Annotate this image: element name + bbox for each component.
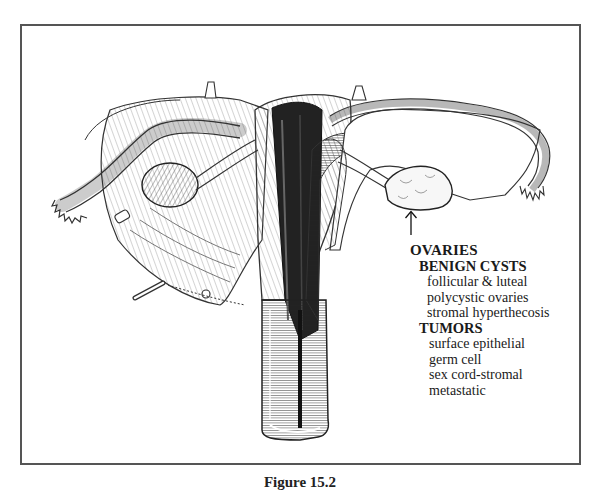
arrow-up-icon bbox=[404, 210, 418, 236]
left-ovary bbox=[142, 163, 198, 207]
vagina bbox=[262, 300, 328, 440]
legend-item: germ cell bbox=[410, 352, 549, 368]
legend-item: stromal hyperthecosis bbox=[410, 305, 549, 321]
legend-group-heading: BENIGN CYSTS bbox=[410, 259, 549, 275]
legend-item: metastatic bbox=[410, 383, 549, 399]
legend-item: surface epithelial bbox=[410, 336, 549, 352]
ovary-disorders-legend: OVARIES BENIGN CYSTS follicular & luteal… bbox=[410, 243, 549, 398]
figure-caption: Figure 15.2 bbox=[0, 474, 600, 491]
right-ovary bbox=[385, 166, 452, 210]
legend-item: polycystic ovaries bbox=[410, 290, 549, 306]
legend-group-heading: TUMORS bbox=[410, 321, 549, 337]
legend-item: sex cord-stromal bbox=[410, 367, 549, 383]
legend-title: OVARIES bbox=[410, 243, 549, 259]
legend-item: follicular & luteal bbox=[410, 274, 549, 290]
